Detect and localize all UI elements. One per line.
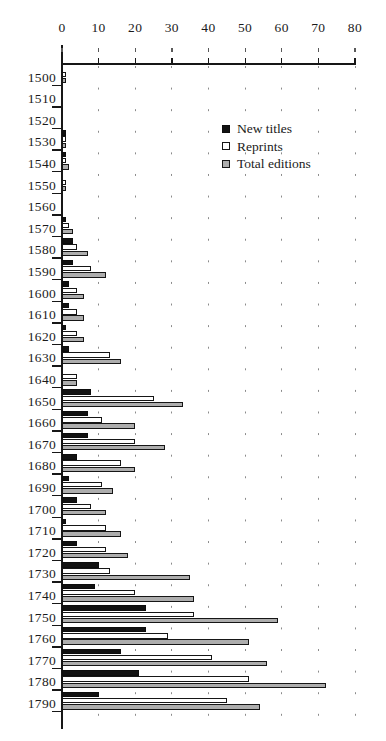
y-tick-label: 1560	[0, 199, 56, 215]
y-tick-label: 1510	[0, 91, 56, 107]
legend-item-new-titles: New titles	[222, 120, 311, 138]
x-tick-label: 20	[128, 20, 142, 36]
bar-1590-total	[62, 272, 106, 277]
bar-1730-reprint	[62, 568, 110, 573]
y-tick-mark	[52, 85, 62, 86]
y-tick-label: 1530	[0, 134, 56, 150]
x-tick-mark	[61, 58, 62, 65]
y-tick-label: 1670	[0, 437, 56, 453]
y-tick-label: 1620	[0, 329, 56, 345]
y-tick-mark	[52, 214, 62, 215]
y-tick-mark	[52, 279, 62, 280]
bar-1790-reprint	[62, 698, 227, 703]
bar-1760-reprint	[62, 633, 168, 638]
bar-1770-new	[62, 649, 121, 654]
y-tick-mark	[52, 603, 62, 604]
x-tick-mark	[354, 58, 355, 65]
y-tick-mark	[52, 128, 62, 129]
y-tick-label: 1780	[0, 674, 56, 690]
bar-chart: 01020304050607080 1500151015201530154015…	[0, 0, 386, 741]
bar-1700-new	[62, 497, 77, 502]
y-tick-mark	[52, 149, 62, 150]
bar-1630-new	[62, 346, 69, 351]
y-tick-label: 1580	[0, 242, 56, 258]
x-tick-label: 70	[311, 20, 325, 36]
bar-1570-reprint	[62, 223, 69, 228]
y-tick-label: 1570	[0, 221, 56, 237]
y-tick-mark	[52, 322, 62, 323]
y-tick-label: 1630	[0, 350, 56, 366]
y-tick-mark	[52, 106, 62, 107]
bar-1670-new	[62, 433, 88, 438]
bar-1750-new	[62, 605, 146, 610]
y-tick-mark	[52, 668, 62, 669]
y-tick-mark	[52, 301, 62, 302]
grid-guide	[171, 66, 172, 728]
bar-1600-new	[62, 281, 69, 286]
y-tick-label: 1640	[0, 372, 56, 388]
bar-1790-new	[62, 692, 99, 697]
x-tick-mark-upper	[135, 48, 136, 52]
x-tick-mark-upper	[245, 48, 246, 52]
bar-1690-total	[62, 488, 113, 493]
bar-1740-total	[62, 596, 194, 601]
bar-1550-reprint	[62, 180, 66, 185]
bar-1610-reprint	[62, 309, 77, 314]
bar-1570-total	[62, 229, 73, 234]
bar-1550-total	[62, 186, 66, 191]
legend-item-total-editions: Total editions	[222, 155, 311, 173]
bar-1610-total	[62, 315, 84, 320]
y-tick-label: 1540	[0, 156, 56, 172]
x-tick-label: 0	[58, 20, 65, 36]
bar-1700-reprint	[62, 504, 91, 509]
bar-1570-new	[62, 217, 66, 222]
bar-1740-new	[62, 584, 95, 589]
bar-1790-total	[62, 704, 260, 709]
y-tick-mark	[52, 517, 62, 518]
bar-1580-total	[62, 251, 88, 256]
x-tick-label: 40	[201, 20, 215, 36]
bar-1500-total	[62, 78, 66, 83]
bar-1780-reprint	[62, 676, 249, 681]
y-tick-label: 1700	[0, 502, 56, 518]
bar-1530-new	[62, 130, 66, 135]
y-tick-mark	[52, 365, 62, 366]
x-tick-mark-upper	[318, 48, 319, 52]
bar-1650-reprint	[62, 396, 154, 401]
y-tick-mark	[52, 625, 62, 626]
bar-1720-reprint	[62, 547, 106, 552]
y-tick-label: 1550	[0, 178, 56, 194]
bar-1650-total	[62, 402, 183, 407]
x-tick-mark-upper	[98, 48, 99, 52]
y-tick-mark	[52, 581, 62, 582]
legend-item-reprints: Reprints	[222, 138, 311, 156]
bar-1600-reprint	[62, 288, 77, 293]
y-tick-mark	[52, 344, 62, 345]
x-tick-mark	[281, 58, 282, 65]
bar-1680-reprint	[62, 460, 121, 465]
bar-1770-reprint	[62, 655, 212, 660]
bar-1620-new	[62, 325, 66, 330]
y-tick-mark	[52, 452, 62, 453]
bar-1710-reprint	[62, 525, 106, 530]
bar-1640-total	[62, 380, 77, 385]
bar-1590-new	[62, 260, 73, 265]
filled-black-square-icon	[222, 125, 230, 133]
bar-1660-total	[62, 423, 135, 428]
y-tick-mark	[52, 473, 62, 474]
y-tick-label: 1660	[0, 415, 56, 431]
y-tick-label: 1790	[0, 696, 56, 712]
bar-1540-reprint	[62, 158, 66, 163]
bar-1590-reprint	[62, 266, 91, 271]
bar-1670-total	[62, 445, 165, 450]
y-tick-label: 1650	[0, 394, 56, 410]
y-tick-mark	[52, 711, 62, 712]
x-tick-mark	[98, 58, 99, 65]
bar-1740-reprint	[62, 590, 135, 595]
y-tick-mark	[52, 257, 62, 258]
filled-gray-square-icon	[222, 160, 230, 168]
y-tick-mark	[52, 689, 62, 690]
x-tick-label: 30	[165, 20, 179, 36]
bar-1690-reprint	[62, 482, 102, 487]
y-tick-label: 1600	[0, 286, 56, 302]
